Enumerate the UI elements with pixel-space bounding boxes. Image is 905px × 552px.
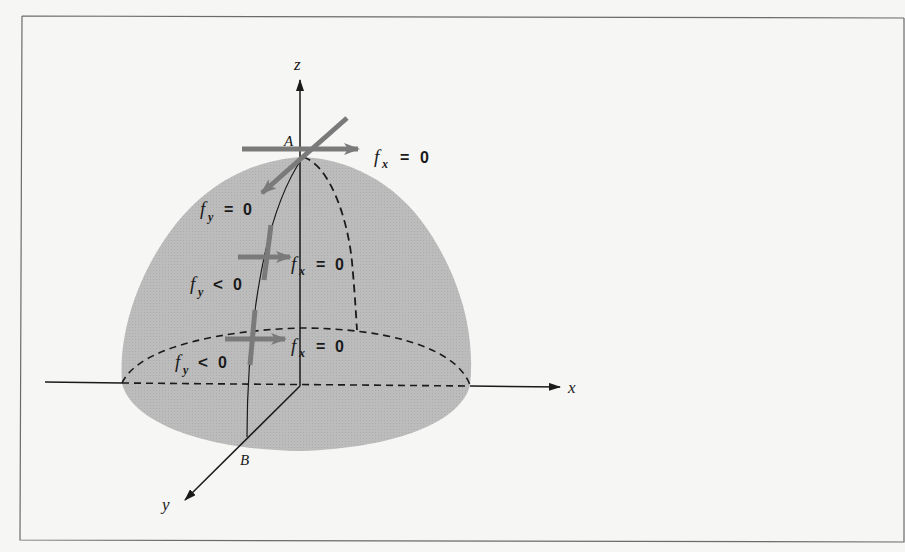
point-a-label: A <box>283 133 294 149</box>
svg-text:=: = <box>316 338 325 355</box>
svg-text:f: f <box>374 146 382 167</box>
svg-text:0: 0 <box>335 338 344 355</box>
x-axis-label: x <box>567 378 576 397</box>
svg-text:y: y <box>196 285 204 299</box>
svg-text:<: < <box>198 353 208 372</box>
svg-text:0: 0 <box>218 354 227 371</box>
paraboloid-diagram: z x y A B f x = 0 f x = 0 f x = 0 f y = … <box>0 0 905 552</box>
paraboloid-surface <box>122 157 472 451</box>
svg-text:0: 0 <box>243 201 252 218</box>
svg-text:0: 0 <box>420 149 429 166</box>
annotation-fx-top: f x = 0 <box>374 146 429 171</box>
svg-text:y: y <box>206 210 214 224</box>
svg-text:0: 0 <box>233 276 242 293</box>
point-b-label: B <box>240 452 249 468</box>
x-axis-left <box>45 382 122 383</box>
svg-text:y: y <box>181 363 189 377</box>
svg-text:=: = <box>316 256 325 273</box>
z-axis-label: z <box>293 55 301 74</box>
svg-text:0: 0 <box>335 256 344 273</box>
svg-text:=: = <box>400 149 409 166</box>
svg-text:x: x <box>298 346 305 360</box>
x-axis-right <box>470 386 560 387</box>
y-axis-label: y <box>160 495 170 514</box>
svg-text:x: x <box>381 157 388 171</box>
svg-text:x: x <box>298 264 305 278</box>
svg-text:<: < <box>213 275 223 294</box>
svg-text:=: = <box>224 201 233 218</box>
